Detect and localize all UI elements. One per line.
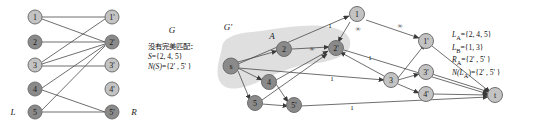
right-note-line-3: RA={2' , 5' } — [452, 55, 500, 68]
node-L3-label: 3 — [33, 61, 37, 70]
node-R5p-label: 5' — [109, 108, 115, 117]
capacity-label-4: 1 — [368, 54, 372, 62]
capacity-label-6: 1 — [350, 104, 354, 112]
node-G2-5p-label: 5' — [291, 101, 297, 110]
capacity-label-2: ∞ — [398, 22, 403, 30]
node-source-s-label: s — [229, 62, 232, 71]
right-note-NLA-value: ={2' , 5' } — [471, 68, 501, 77]
edge-4-5p — [276, 84, 288, 102]
edge-5-5p — [262, 104, 288, 106]
edge-4-2p — [42, 45, 105, 88]
right-note-line-1: LA={2, 4, 5} — [452, 30, 500, 43]
node-L1-label: 1 — [33, 13, 37, 22]
node-G2-4p-label: 4' — [423, 90, 429, 99]
node-G2-3p-label: 3' — [423, 68, 429, 77]
left-note-line-1: 没有完美匹配： — [148, 42, 197, 52]
node-G2-4-label: 4 — [267, 78, 271, 87]
left-annotation-block: 没有完美匹配： S={2, 4, 5} N(S)={2' , 5' } — [148, 42, 197, 73]
label-R-side: R — [130, 107, 137, 117]
right-note-line-4: N(LA)={2' , 5' } — [452, 68, 500, 81]
right-note-LB-value: ={1, 3} — [460, 43, 483, 52]
capacity-label-1: ∞ — [356, 25, 361, 33]
left-note-N-value: ={2' , 5' } — [162, 62, 192, 71]
edge-3-3p — [398, 74, 419, 80]
label-region-A: A — [268, 31, 275, 41]
left-note-N-arg: (S) — [153, 62, 162, 71]
node-G2-1-label: 1 — [355, 10, 359, 19]
right-note-RA-value: ={2' , 5' } — [461, 55, 491, 64]
left-graph-right-nodes: 1' 2' 3' 4' 5' — [105, 10, 119, 119]
node-G2-1p-label: 1' — [423, 37, 429, 46]
capacity-label-0: 1 — [328, 22, 332, 30]
left-note-S-value: ={2, 4, 5} — [152, 52, 183, 61]
right-note-NLA-arg-open: (L — [457, 68, 464, 77]
node-R3p-label: 3' — [109, 61, 115, 70]
edge-4p-t — [432, 94, 488, 95]
node-R1p-label: 1' — [109, 13, 115, 22]
left-note-line-3: N(S)={2' , 5' } — [148, 62, 197, 72]
edge-5p-t — [300, 97, 488, 106]
node-L4-label: 4 — [33, 85, 37, 94]
capacity-label-3: ∞ — [310, 45, 315, 53]
left-graph-left-nodes: 1 2 3 4 5 — [28, 10, 42, 119]
node-G2-2-label: 2 — [282, 45, 286, 54]
node-G2-5-label: 5 — [253, 99, 257, 108]
node-G2-2p-label: 2' — [333, 44, 339, 53]
left-graph-edges — [42, 17, 105, 112]
title-G-prime: G' — [224, 22, 233, 32]
figure-bipartite-matching-and-flow-network: 1 2 3 4 5 1' 2' 3' 4' 5' — [0, 0, 537, 130]
left-note-line-2: S={2, 4, 5} — [148, 52, 197, 62]
right-note-LA-value: ={2, 4, 5} — [461, 30, 492, 39]
edge-4-5p — [42, 90, 105, 112]
node-R2p-label: 2' — [109, 38, 115, 47]
label-L-side: L — [9, 107, 15, 117]
title-G: G — [169, 25, 176, 35]
edge-1-1p — [366, 20, 419, 38]
node-R4p-label: 4' — [109, 85, 115, 94]
edge-3-4p — [398, 84, 419, 93]
right-note-line-2: LB={1, 3} — [452, 43, 500, 56]
capacity-label-5: 1 — [330, 75, 334, 83]
node-G2-3-label: 3 — [389, 76, 393, 85]
node-L2-label: 2 — [33, 38, 37, 47]
edge-3-2p — [42, 44, 105, 64]
right-annotation-block: LA={2, 4, 5} LB={1, 3} RA={2' , 5' } N(L… — [452, 30, 500, 81]
node-L5-label: 5 — [33, 108, 37, 117]
edge-1-2p — [42, 19, 105, 42]
